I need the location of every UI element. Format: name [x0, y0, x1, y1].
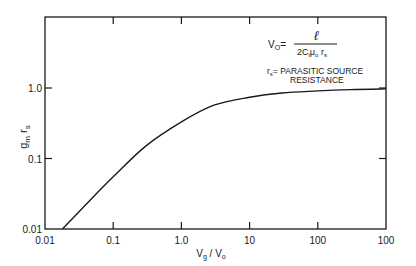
- x-tick-label: 0.01: [35, 235, 55, 246]
- formula-equals: =: [280, 39, 286, 50]
- y-label-sub-s: s: [23, 125, 32, 129]
- formula-lhs: VO=: [268, 39, 286, 51]
- rs-definition-line2: RESISTANCE: [290, 75, 344, 85]
- y-tick-label: 1.0: [28, 83, 42, 94]
- tick-marks: [45, 17, 386, 229]
- x-axis-label: Vg / Vo: [196, 248, 226, 261]
- x-tick-label: 100: [378, 235, 395, 246]
- x-tick-label: 100: [309, 235, 326, 246]
- x-tick-labels: 0.010.11.010100100: [35, 235, 395, 246]
- y-tick-labels: 0.010.11.0: [23, 83, 43, 235]
- x-tick-label: 10: [244, 235, 256, 246]
- y-tick-label: 0.1: [28, 154, 42, 165]
- den-s: s: [324, 52, 327, 58]
- y-tick-label: 0.01: [23, 224, 43, 235]
- y-axis-label: gm rs: [17, 125, 32, 149]
- chart: 0.010.11.010100100 0.010.11.0 gm rs Vg /…: [0, 0, 416, 266]
- x-tick-label: 1.0: [174, 235, 188, 246]
- den-2c: 2C: [297, 47, 309, 57]
- plot-frame: [45, 17, 386, 229]
- formula-denominator: 2Ciμo rs: [297, 47, 327, 58]
- formula-annotation: VO= ℓ 2Ciμo rs rs= PARASITIC SOURCE RESI…: [267, 28, 363, 85]
- x-tick-label: 0.1: [106, 235, 120, 246]
- x-label-sub-o: o: [222, 253, 226, 260]
- formula-numerator: ℓ: [314, 28, 319, 43]
- x-label-sep: / V: [207, 248, 222, 259]
- data-curve: [62, 89, 386, 229]
